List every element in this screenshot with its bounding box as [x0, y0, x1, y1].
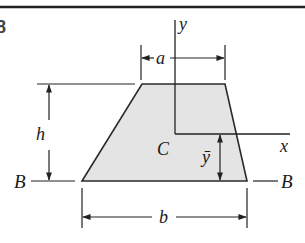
trapezoid-area [82, 84, 247, 181]
centroid-label: C [157, 139, 170, 159]
trapezoid-centroid-diagram: 8 y x C a h B B ȳ [0, 0, 305, 243]
base-label-left: B [14, 171, 26, 192]
b-dimension-label: b [159, 207, 168, 227]
a-dimension-label: a [156, 48, 165, 68]
h-dimension-label: h [36, 124, 45, 144]
base-label-right: B [281, 171, 293, 192]
x-axis-label: x [279, 136, 288, 156]
figure-number: 8 [0, 17, 6, 37]
ybar-dimension-label: ȳ [200, 147, 211, 167]
y-axis-label: y [177, 14, 187, 34]
